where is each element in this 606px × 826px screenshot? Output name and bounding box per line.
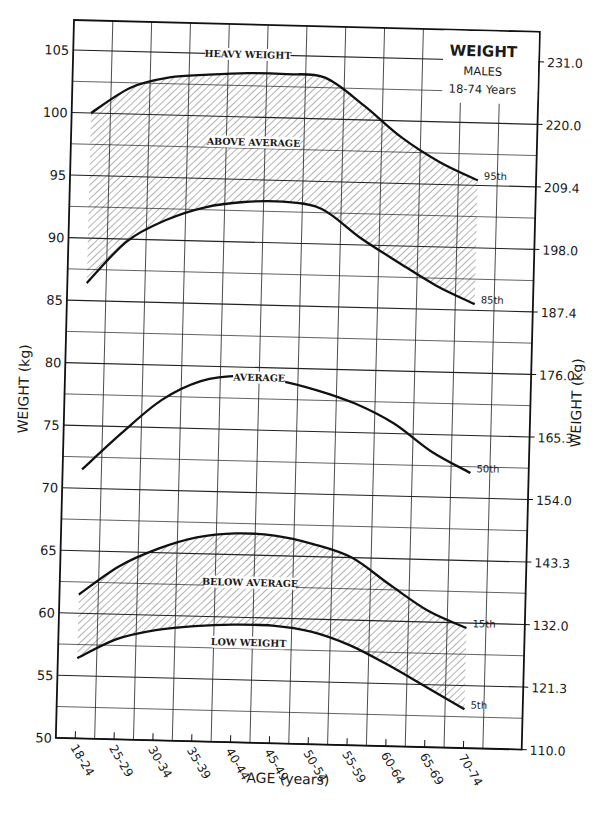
chart-subtitle-ages: 18-74 Years bbox=[448, 82, 516, 98]
y-tick-label-right: 198.0 bbox=[542, 243, 578, 259]
y-tick-label-right: 154.0 bbox=[536, 493, 572, 509]
y-tick-label-left: 105 bbox=[44, 42, 69, 58]
y-tick-label-left: 50 bbox=[35, 730, 52, 745]
x-tick-label: 18-24 bbox=[67, 742, 97, 779]
y-tick-label-left: 55 bbox=[37, 668, 54, 683]
y-tick-label-right: 220.0 bbox=[545, 118, 581, 134]
y-axis-label-left: WEIGHT (kg) bbox=[15, 344, 33, 434]
percentile-label-95th: 95th bbox=[484, 171, 507, 183]
y-tick-label-left: 65 bbox=[40, 543, 57, 558]
annotation-low-weight: LOW WEIGHT bbox=[211, 636, 287, 649]
chart-title: WEIGHT bbox=[449, 42, 518, 62]
chart-canvas: 95th85th50th15th5th HEAVY WEIGHTABOVE AV… bbox=[0, 0, 606, 826]
x-tick-label: 25-29 bbox=[106, 743, 136, 780]
x-tick-label: 70-74 bbox=[456, 751, 486, 788]
y-tick-label-right: 110.0 bbox=[529, 743, 565, 759]
percentile-label-85th: 85th bbox=[481, 294, 504, 306]
chart-subtitle-sex: MALES bbox=[463, 64, 502, 79]
y-tick-label-left: 90 bbox=[48, 230, 65, 245]
grid-line-vertical bbox=[483, 31, 501, 749]
y-tick-label-right: 143.3 bbox=[534, 555, 570, 571]
x-tick-label: 65-69 bbox=[417, 750, 447, 787]
y-tick-label-left: 85 bbox=[46, 293, 63, 308]
percentile-label-50th: 50th bbox=[476, 463, 499, 475]
percentile-label-15th: 15th bbox=[472, 618, 495, 630]
y-tick-label-left: 70 bbox=[41, 480, 58, 495]
y-tick-label-right: 231.0 bbox=[547, 55, 583, 71]
x-tick-label: 60-64 bbox=[378, 749, 408, 786]
y-tick-label-right: 132.0 bbox=[533, 618, 569, 634]
y-tick-label-left: 75 bbox=[43, 418, 60, 433]
x-axis-label: AGE (years) bbox=[246, 770, 329, 788]
y-axis-label-right: WEIGHT (kg) bbox=[567, 358, 585, 448]
y-tick-label-left: 80 bbox=[45, 355, 62, 370]
y-tick-label-right: 209.4 bbox=[544, 180, 580, 196]
annotation-heavy-weight: HEAVY WEIGHT bbox=[204, 48, 291, 61]
x-tick-label: 35-39 bbox=[184, 744, 214, 781]
y-tick-label-right: 121.3 bbox=[531, 680, 567, 696]
x-tick-label: 30-34 bbox=[145, 744, 175, 781]
y-tick-label-left: 95 bbox=[49, 168, 66, 183]
y-tick-label-right: 187.4 bbox=[541, 305, 577, 321]
annotation-average: AVERAGE bbox=[232, 371, 285, 383]
percentile-label-5th: 5th bbox=[470, 699, 487, 710]
title-box: WEIGHT MALES 18-74 Years bbox=[442, 30, 539, 104]
x-tick-label: 55-59 bbox=[339, 748, 369, 785]
left-y-axis: 50556065707580859095100105 bbox=[27, 42, 70, 745]
y-tick-label-left: 60 bbox=[38, 605, 55, 620]
y-tick-label-left: 100 bbox=[43, 105, 68, 121]
weight-percentile-chart: 95th85th50th15th5th HEAVY WEIGHTABOVE AV… bbox=[0, 0, 606, 826]
